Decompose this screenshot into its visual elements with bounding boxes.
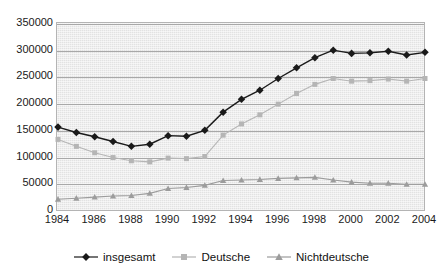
data-point (92, 150, 97, 155)
data-point (202, 154, 207, 159)
data-point (348, 50, 356, 58)
data-point (129, 158, 134, 163)
data-point (331, 76, 336, 81)
plot-area (56, 22, 425, 211)
data-point (54, 123, 62, 131)
chart-legend: insgesamtDeutscheNichtdeutsche (0, 246, 442, 268)
data-point (312, 82, 317, 87)
data-point (221, 133, 226, 138)
data-point (366, 49, 374, 57)
data-point (109, 138, 117, 146)
data-point (239, 121, 244, 126)
data-point (166, 156, 171, 161)
series-nichtdeutsche (55, 174, 428, 202)
legend-item-insgesamt[interactable]: insgesamt (73, 251, 155, 263)
data-point (421, 49, 429, 57)
data-point (349, 79, 354, 84)
legend-marker-diamond-icon (73, 251, 99, 263)
data-point (423, 76, 428, 81)
data-point (147, 159, 152, 164)
y-axis-tick-label: 50000 (1, 177, 53, 188)
data-point (274, 75, 282, 83)
legend-item-deutsche[interactable]: Deutsche (171, 251, 250, 263)
series-layer (57, 23, 426, 212)
data-point (111, 155, 116, 160)
data-point (311, 54, 319, 62)
legend-item-nichtdeutsche[interactable]: Nichtdeutsche (266, 251, 369, 263)
x-axis-tick-label: 2002 (375, 213, 399, 226)
x-axis-tick-label: 1988 (118, 213, 142, 226)
data-point (56, 137, 61, 142)
x-axis-tick-label: 2000 (338, 213, 362, 226)
line-chart: 0500001000001500002000002500003000003500… (0, 0, 442, 271)
y-axis-tick-label: 200000 (1, 97, 53, 108)
data-point (329, 46, 337, 54)
data-point (256, 86, 264, 94)
data-point (74, 144, 79, 149)
y-axis-tick-label: 100000 (1, 151, 53, 162)
x-axis-tick-label: 2004 (412, 213, 436, 226)
data-point (385, 47, 393, 55)
data-point (276, 102, 281, 107)
x-axis-tick-label: 1998 (302, 213, 326, 226)
x-axis-tick-label: 1984 (45, 213, 69, 226)
data-point (183, 132, 191, 140)
legend-marker-triangle-icon (266, 251, 292, 263)
legend-label: Deutsche (201, 251, 250, 263)
y-axis-tick-label: 300000 (1, 44, 53, 55)
data-point (404, 79, 409, 84)
legend-label: Nichtdeutsche (296, 251, 369, 263)
legend-marker-square-icon (171, 251, 197, 263)
x-axis-tick-label: 1992 (192, 213, 216, 226)
y-axis-tick-label: 250000 (1, 70, 53, 81)
x-axis-tick-label: 1990 (155, 213, 179, 226)
x-axis-tick-label: 1996 (265, 213, 289, 226)
legend-label: insgesamt (103, 251, 155, 263)
series-insgesamt (54, 46, 429, 150)
x-axis-tick-label: 1994 (228, 213, 252, 226)
series-line (58, 79, 425, 162)
data-point (184, 156, 189, 161)
series-deutsche (56, 76, 428, 164)
data-point (146, 140, 154, 148)
data-point (128, 143, 136, 151)
data-point (386, 77, 391, 82)
data-point (91, 133, 99, 141)
data-point (293, 64, 301, 72)
data-point (257, 112, 262, 117)
x-axis: 1984198619881990199219941996199820002002… (56, 213, 425, 229)
y-axis-tick-label: 150000 (1, 124, 53, 135)
data-point (403, 51, 411, 59)
data-point (367, 78, 372, 83)
y-axis-tick-label: 350000 (1, 17, 53, 28)
data-point (73, 129, 81, 137)
x-axis-tick-label: 1986 (81, 213, 105, 226)
data-point (294, 91, 299, 96)
data-point (164, 132, 172, 140)
y-axis: 0500001000001500002000002500003000003500… (0, 22, 53, 211)
